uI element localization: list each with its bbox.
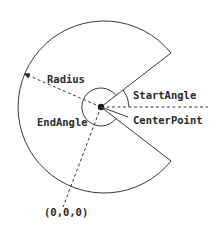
origin-label: (0,0,0) <box>44 206 88 218</box>
end-angle-label: EndAngle <box>37 116 88 128</box>
start-angle-arc <box>123 90 129 107</box>
start-angle-label: StartAngle <box>133 89 196 101</box>
center-point-leader <box>101 107 128 117</box>
sector-outline <box>18 21 171 193</box>
center-point-label: CenterPoint <box>133 114 203 126</box>
radius-label: Radius <box>47 73 85 85</box>
sector-diagram: Radius StartAngle EndAngle CenterPoint (… <box>0 0 218 231</box>
